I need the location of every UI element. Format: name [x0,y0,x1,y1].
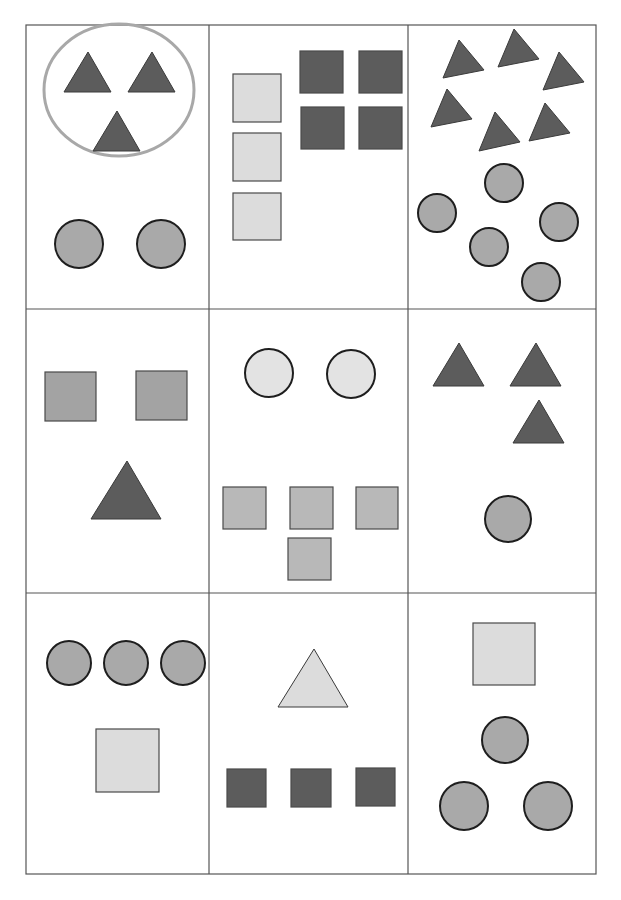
triangle-dark [128,52,175,92]
cell-6 [433,343,564,542]
circle-medium [104,641,148,685]
square-dark [359,107,402,149]
square-dark [356,768,395,806]
square-dark [227,769,266,807]
square-light [473,623,535,685]
triangle-dark [93,111,140,151]
circle-medium [137,220,185,268]
square-medium-light [290,487,333,529]
triangle-dark [510,343,561,386]
circle-medium [47,641,91,685]
square-dark [300,51,343,93]
circle-medium [522,263,560,301]
circle-medium [440,782,488,830]
triangle-dark [91,461,161,519]
square-light [233,74,281,122]
triangle-dark [513,400,564,443]
cell-1 [44,24,194,268]
square-medium [136,371,187,420]
triangle-dark [431,89,472,127]
triangle-dark [64,52,111,92]
circle-medium [524,782,572,830]
circle-light [327,350,375,398]
circle-medium [482,717,528,763]
cell-7 [47,641,205,792]
cell-4 [45,371,187,519]
circle-medium [485,496,531,542]
square-light [96,729,159,792]
square-medium-light [288,538,331,580]
circle-medium [418,194,456,232]
circle-medium [540,203,578,241]
square-dark [301,107,344,149]
triangle-dark [479,112,520,151]
triangle-light [278,649,348,707]
cell-8 [227,649,395,807]
circle-medium [485,164,523,202]
square-dark [291,769,331,807]
shapes-worksheet [0,0,621,900]
square-dark [359,51,402,93]
triangle-dark [498,29,539,67]
triangle-dark [543,52,584,90]
square-light [233,193,281,240]
square-light [233,133,281,181]
circle-medium [470,228,508,266]
cell-9 [440,623,572,830]
triangle-dark [443,40,484,78]
square-medium [45,372,96,421]
triangle-dark [529,103,570,141]
circle-medium [55,220,103,268]
cell-2 [233,51,402,240]
circle-medium [161,641,205,685]
cell-5 [223,349,398,580]
circle-light [245,349,293,397]
square-medium-light [356,487,398,529]
triangle-dark [433,343,484,386]
square-medium-light [223,487,266,529]
cell-3 [418,29,584,301]
